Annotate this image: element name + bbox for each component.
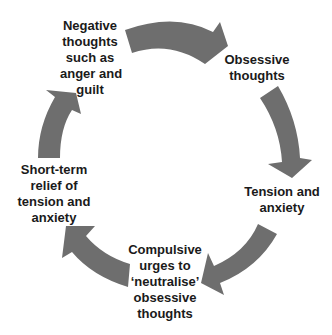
node-compulsive-urges: Compulsive urges to ‘neutralise’ obsessi… <box>124 242 206 322</box>
node-obsessive-thoughts: Obsessive thoughts <box>222 52 292 84</box>
node-text-line: guilt <box>60 82 120 98</box>
node-text-line: Negative <box>60 18 120 34</box>
node-text-line: Compulsive <box>124 242 206 258</box>
arrow-negative-to-obsessive <box>125 21 228 64</box>
arrow-compulsive-to-relief <box>62 226 130 287</box>
node-text-line: thoughts <box>124 306 206 322</box>
node-text-line: obsessive <box>124 290 206 306</box>
node-short-term-relief: Short-term relief of tension and anxiety <box>14 162 94 226</box>
arrow-relief-to-negative <box>38 90 81 158</box>
node-text-line: tension and <box>14 194 94 210</box>
node-text-line: Tension and <box>242 184 322 200</box>
node-text-line: Short-term <box>14 162 94 178</box>
node-tension-and-anxiety: Tension and anxiety <box>242 184 322 216</box>
node-text-line: ‘neutralise’ <box>124 274 206 290</box>
node-text-line: anger and <box>60 66 120 82</box>
node-text-line: urges to <box>124 258 206 274</box>
node-text-line: Obsessive <box>222 52 292 68</box>
node-negative-thoughts: Negative thoughts such as anger and guil… <box>60 18 120 98</box>
node-text-line: relief of <box>14 178 94 194</box>
arrow-obsessive-to-tension <box>260 86 312 178</box>
arrow-tension-to-compulsive <box>201 224 277 295</box>
node-text-line: thoughts <box>60 34 120 50</box>
ocd-cycle-diagram: Negative thoughts such as anger and guil… <box>0 0 332 335</box>
node-text-line: anxiety <box>14 210 94 226</box>
node-text-line: anxiety <box>242 200 322 216</box>
node-text-line: such as <box>60 50 120 66</box>
node-text-line: thoughts <box>222 68 292 84</box>
